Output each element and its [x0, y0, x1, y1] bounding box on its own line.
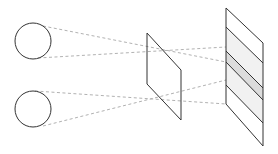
projection-line: [43, 26, 226, 62]
projection-line: [43, 80, 226, 126]
projection-line: [35, 91, 226, 104]
source-circle-top: [15, 23, 51, 59]
projection-line: [38, 47, 226, 58]
projection-diagram: [0, 0, 278, 154]
source-circle-bottom: [15, 91, 51, 127]
aperture-plane: [147, 33, 181, 120]
